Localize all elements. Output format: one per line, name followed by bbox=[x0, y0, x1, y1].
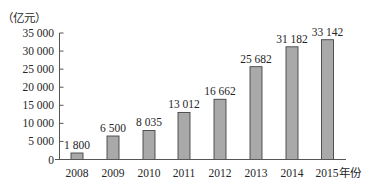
bar-2013 bbox=[250, 67, 262, 160]
bar-value-label: 6 500 bbox=[100, 122, 126, 134]
x-axis-tick-labels: 20082009201020112012201320142015年份 bbox=[66, 166, 362, 179]
y-tick-label: 35 000 bbox=[22, 27, 54, 39]
x-tick-label: 2011 bbox=[173, 167, 196, 179]
bar-value-label: 13 012 bbox=[168, 98, 200, 110]
bars: 1 8006 5008 03513 01216 66225 68231 1823… bbox=[64, 26, 344, 160]
x-tick-label: 2013 bbox=[245, 167, 268, 179]
x-tick-label: 2009 bbox=[102, 167, 125, 179]
bar-value-label: 1 800 bbox=[64, 139, 90, 151]
y-tick-label: 20 000 bbox=[22, 81, 54, 93]
bar-value-label: 33 142 bbox=[312, 26, 344, 38]
bar-2015 bbox=[322, 40, 334, 160]
y-tick-label: 10 000 bbox=[22, 117, 54, 129]
y-tick-label: 0 bbox=[48, 154, 54, 166]
x-tick-label: 2012 bbox=[209, 167, 232, 179]
bar-2012 bbox=[214, 99, 226, 159]
bar-2009 bbox=[107, 136, 119, 159]
bar-2008 bbox=[71, 153, 83, 160]
bar-value-label: 8 035 bbox=[136, 116, 162, 128]
x-tick-label: 2010 bbox=[138, 167, 161, 179]
bar-2011 bbox=[178, 112, 190, 159]
y-tick-label: 25 000 bbox=[22, 63, 54, 75]
x-tick-label: 2015年份 bbox=[316, 166, 362, 179]
y-tick-label: 15 000 bbox=[22, 99, 54, 111]
bar-value-label: 25 682 bbox=[240, 53, 272, 65]
bar-2010 bbox=[143, 130, 155, 159]
y-axis-ticks: 05 00010 00015 00020 00025 00030 00035 0… bbox=[22, 27, 63, 166]
bar-value-label: 16 662 bbox=[204, 85, 236, 97]
x-tick-label: 2014 bbox=[281, 167, 304, 179]
bar-chart: （亿元） 05 00010 00015 00020 00025 00030 00… bbox=[0, 0, 380, 185]
y-tick-label: 5 000 bbox=[28, 135, 54, 147]
y-axis-unit-label: （亿元） bbox=[2, 12, 46, 24]
x-tick-label: 2008 bbox=[66, 167, 89, 179]
y-tick-label: 30 000 bbox=[22, 45, 54, 57]
bar-2014 bbox=[286, 47, 298, 160]
bar-value-label: 31 182 bbox=[276, 33, 308, 45]
